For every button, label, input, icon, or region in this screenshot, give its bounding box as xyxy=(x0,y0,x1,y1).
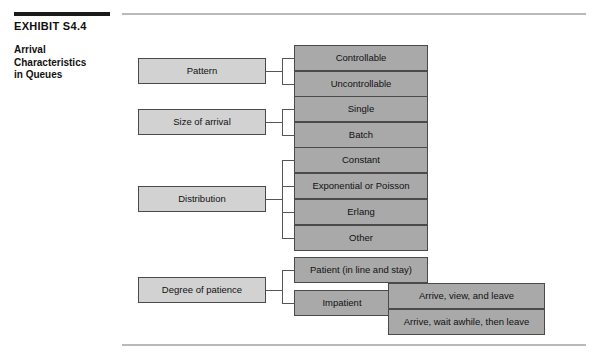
node-uncontrollable: Uncontrollable xyxy=(294,71,428,97)
connector-size-bracket xyxy=(282,109,283,135)
connector-patience-stem xyxy=(266,290,282,291)
connector-patience-to-impatient xyxy=(282,303,294,304)
exhibit-title-line-3: in Queues xyxy=(14,69,114,82)
connector-patience-to-patient xyxy=(282,270,294,271)
connector-size-to-batch xyxy=(282,135,294,136)
node-batch: Batch xyxy=(294,122,428,148)
node-distribution: Distribution xyxy=(138,186,266,212)
node-single: Single xyxy=(294,96,428,122)
node-pattern: Pattern xyxy=(138,58,266,84)
connector-distribution-bracket xyxy=(282,160,283,238)
connector-size-to-single xyxy=(282,109,294,110)
title-rule xyxy=(14,12,110,16)
node-erlang: Erlang xyxy=(294,199,428,225)
exhibit-number: EXHIBIT S4.4 xyxy=(14,20,87,32)
exhibit-title: Arrival Characteristics in Queues xyxy=(14,44,114,82)
node-degree-of-patience: Degree of patience xyxy=(138,277,266,303)
connector-distribution-stem xyxy=(266,199,282,200)
node-controllable: Controllable xyxy=(294,45,428,71)
connector-pattern-stem xyxy=(266,71,282,72)
exhibit-title-line-2: Characteristics xyxy=(14,57,114,70)
node-constant: Constant xyxy=(294,147,428,173)
connector-pattern-to-uncontrollable xyxy=(282,84,294,85)
connector-distribution-to-exponential xyxy=(282,186,294,187)
connector-patience-bracket xyxy=(282,270,283,303)
connector-pattern-to-controllable xyxy=(282,58,294,59)
node-arrive-wait-awhile-then-leave: Arrive, wait awhile, then leave xyxy=(388,309,545,335)
connector-pattern-bracket xyxy=(282,58,283,84)
connector-size-stem xyxy=(266,122,282,123)
top-divider-rule xyxy=(122,13,586,15)
exhibit-title-line-1: Arrival xyxy=(14,44,114,57)
node-impatient: Impatient xyxy=(294,290,390,316)
exhibit-page: EXHIBIT S4.4 Arrival Characteristics in … xyxy=(0,0,600,359)
connector-distribution-to-constant xyxy=(282,160,294,161)
node-exponential-or-poisson: Exponential or Poisson xyxy=(294,173,428,199)
bottom-divider-rule xyxy=(122,344,586,346)
node-other: Other xyxy=(294,225,428,251)
node-size-of-arrival: Size of arrival xyxy=(138,109,266,135)
node-arrive-view-and-leave: Arrive, view, and leave xyxy=(388,283,545,309)
connector-distribution-to-erlang xyxy=(282,212,294,213)
connector-distribution-to-other xyxy=(282,238,294,239)
node-patient: Patient (in line and stay) xyxy=(294,257,428,283)
